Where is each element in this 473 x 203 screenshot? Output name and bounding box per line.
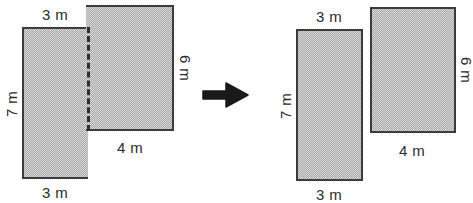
label-separated-right-height: 6 m xyxy=(459,57,473,83)
label-composite-bottom-right-width: 4 m xyxy=(117,140,143,155)
label-separated-left-top-width: 3 m xyxy=(316,9,342,24)
label-composite-bottom-left-width: 3 m xyxy=(42,185,68,200)
label-separated-left-bottom-width: 3 m xyxy=(316,187,342,202)
label-separated-right-bottom-width: 4 m xyxy=(399,143,425,158)
separated-wide-rectangle xyxy=(370,7,456,133)
label-composite-top-left-width: 3 m xyxy=(42,7,68,22)
diagram-canvas: 3 m 7 m 3 m 6 m 4 m 3 m 7 m 3 m 6 m 4 m xyxy=(0,0,473,203)
transformation-arrow-icon xyxy=(202,82,250,108)
composite-tall-rectangle xyxy=(22,27,88,179)
label-composite-right-height: 6 m xyxy=(178,55,193,81)
composite-wide-rectangle xyxy=(86,5,174,131)
separated-tall-rectangle xyxy=(296,29,363,181)
label-separated-left-height: 7 m xyxy=(278,93,293,119)
label-composite-left-height: 7 m xyxy=(4,91,19,117)
dashed-division-line xyxy=(87,27,90,131)
